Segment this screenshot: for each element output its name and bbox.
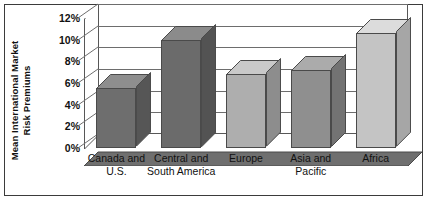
- axis-tick: [78, 2, 100, 20]
- x-axis-category-labels: Canada andU.S.Central andSouth AmericaEu…: [84, 150, 424, 192]
- bar-front-face: [356, 33, 396, 148]
- bar-front-face: [96, 88, 136, 148]
- y-axis-tick-label: 12%: [46, 12, 80, 24]
- bar-front-face: [161, 40, 201, 148]
- plot-area: [84, 18, 408, 148]
- bar-top-face: [161, 26, 201, 40]
- axis-tick: [78, 45, 100, 63]
- y-axis-tick-label: 0%: [46, 142, 80, 154]
- bar-side-face: [266, 74, 280, 148]
- bar-side-face: [331, 70, 345, 148]
- axis-tick: [78, 24, 100, 42]
- bar-front-face: [291, 70, 331, 148]
- y-axis-tick-label: 10%: [46, 34, 80, 46]
- bar[interactable]: [161, 40, 201, 148]
- bar-side-face: [396, 33, 410, 148]
- y-axis-tick-label: 4%: [46, 99, 80, 111]
- y-axis-title-line1: Mean International Market: [10, 40, 22, 160]
- bar[interactable]: [291, 70, 331, 148]
- y-axis-tick-label: 8%: [46, 55, 80, 67]
- bar[interactable]: [226, 74, 266, 148]
- bar[interactable]: [96, 88, 136, 148]
- x-axis-category-label-line: South America: [143, 165, 220, 178]
- y-axis-tick-label: 2%: [46, 120, 80, 132]
- y-axis-title: Mean International Market Risk Premiums: [6, 6, 36, 194]
- y-axis-title-line2: Risk Premiums: [21, 40, 33, 160]
- bar-top-face: [96, 74, 136, 88]
- bar-top-face: [291, 56, 331, 70]
- chart-figure: Mean International Market Risk Premiums …: [0, 0, 427, 200]
- bar-side-face: [136, 88, 150, 148]
- bar[interactable]: [356, 33, 396, 148]
- bar-side-face: [201, 40, 215, 148]
- x-axis-category-label-line: Pacific: [272, 165, 349, 178]
- y-axis-tick-labels: 0%2%4%6%8%10%12%: [40, 18, 80, 158]
- gridline: [98, 4, 408, 5]
- bar-top-face: [226, 60, 266, 74]
- y-axis-tick-label: 6%: [46, 77, 80, 89]
- x-axis-category-label: Africa: [337, 152, 414, 165]
- bar-front-face: [226, 74, 266, 148]
- x-axis-category-label-line: Africa: [337, 152, 414, 165]
- bar-top-face: [356, 19, 396, 33]
